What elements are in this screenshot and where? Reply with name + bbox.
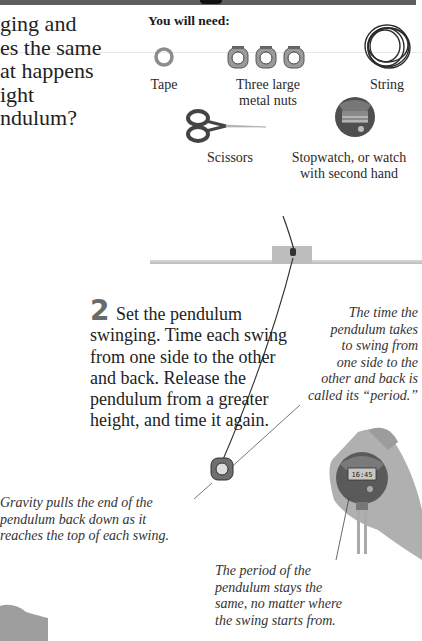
stopwatch-label: Stopwatch, or watch with second hand (276, 150, 422, 182)
caption-line: The period of the (215, 563, 395, 580)
step-number: 2 (90, 294, 109, 327)
tape-label: Tape (144, 77, 184, 93)
intro-question: ging andes the sameat happensightndulum? (0, 12, 160, 130)
metal-nuts-label: Three large metal nuts (218, 77, 318, 109)
label-line: metal nuts (218, 93, 318, 109)
caption-line: called its “period.” (290, 388, 418, 405)
scissors-label: Scissors (200, 150, 260, 166)
gravity-caption: Gravity pulls the end of the pendulum ba… (0, 495, 200, 545)
scissors-icon (186, 109, 268, 143)
intro-line: at happens (0, 59, 160, 83)
caption-line: the swing starts from. (215, 613, 395, 630)
intro-line: ging and (0, 12, 160, 36)
caption-line: pendulum takes (290, 322, 418, 339)
period-definition-caption: The time the pendulum takes to swing fro… (290, 305, 418, 404)
intro-line: es the same (0, 36, 160, 60)
intro-line: ndulum? (0, 106, 160, 130)
string-icon (360, 20, 414, 72)
intro-line: ight (0, 83, 160, 107)
metal-nuts-icon (226, 44, 310, 72)
step-2-instruction: 2 Set the pendulum swinging. Time each s… (90, 300, 290, 432)
hand-with-stopwatch: 16:45 (318, 420, 422, 560)
caption-line: pendulum stays the (215, 580, 395, 597)
step-text: Set the pendulum swinging. Time each swi… (90, 304, 287, 430)
caption-line: pendulum back down as it (0, 512, 200, 529)
stopwatch-display: 16:45 (351, 471, 372, 479)
caption-line: to swing from (290, 338, 418, 355)
caption-line: Gravity pulls the end of the (0, 495, 200, 512)
period-constant-caption: The period of the pendulum stays the sam… (215, 563, 395, 629)
caption-line: reaches the top of each swing. (0, 528, 200, 545)
materials-title: You will need: (148, 13, 230, 29)
caption-line: The time the (290, 305, 418, 322)
string-label: String (362, 77, 412, 93)
tape-icon (153, 46, 175, 68)
title-letter-fragment (200, 0, 222, 4)
label-line: with second hand (276, 166, 422, 182)
stopwatch-icon (333, 93, 377, 139)
label-line: Three large (218, 77, 318, 93)
caption-line: one side to the (290, 355, 418, 372)
caption-line: same, no matter where (215, 596, 395, 613)
partial-hand-image (0, 600, 60, 641)
caption-line: other and back is (290, 371, 418, 388)
label-line: Stopwatch, or watch (276, 150, 422, 166)
